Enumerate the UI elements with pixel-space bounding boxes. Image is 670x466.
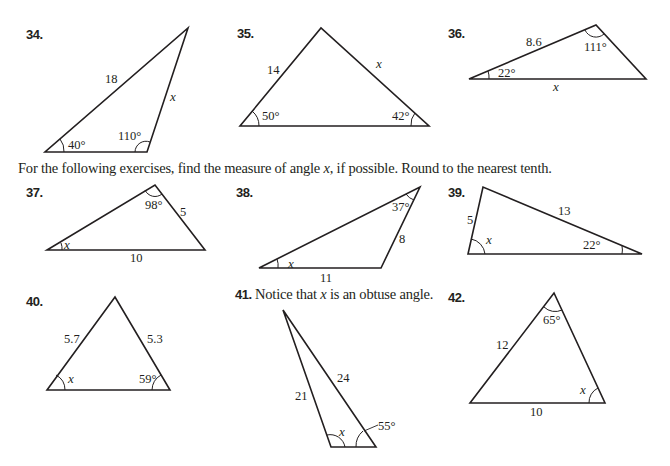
side-label: 10 [530,405,543,419]
angle-pointer [364,425,378,431]
triangle [45,28,188,152]
angle-arc [60,139,64,152]
side-label: 12 [496,338,509,352]
angle-label: 22° [498,66,516,80]
side-label: 5 [467,213,473,227]
angle-arc [356,431,363,447]
side-label: 5.3 [147,332,163,346]
side-label: 18 [105,72,118,86]
exercise-41: 21 24 x 55° [283,310,396,447]
angle-label: 55° [378,419,396,433]
side-label: 5.7 [64,332,80,346]
side-label-x: x [169,89,176,104]
exercise-number: 37. [26,185,43,200]
triangle [469,25,646,79]
exercise-number: 38. [236,185,253,200]
angle-arc [252,111,259,126]
angle-arc [471,239,485,254]
angle-label-x: x [287,256,294,271]
angle-arc [411,113,415,126]
side-label-x: x [552,79,559,94]
exercise-35: 35. 14 x 50° 42° [237,26,429,126]
angle-arc [589,388,598,403]
triangle [468,187,642,254]
exercise-41-note: 41. Notice that x is an obtuse angle. [235,286,433,303]
instruction-text: For the following exercises, find the me… [18,160,552,177]
exercise-38: 38. 37° 8 x 11 [236,185,420,285]
angle-arc [488,71,489,79]
angle-label: 59° [139,372,157,386]
angle-label-x: x [338,424,345,439]
triangle [283,310,376,447]
angle-label: 110° [118,129,141,143]
angle-arc [277,259,278,268]
angle-label: 98° [145,198,163,212]
angle-label-x: x [579,382,586,397]
side-label: 24 [337,371,350,385]
exercise-37: 37. x 98° 5 10 [26,185,205,265]
exercise-number: 39. [448,185,465,200]
angle-arc [61,243,62,250]
angle-label-x: x [63,237,70,252]
angle-label: 111° [584,40,607,54]
angle-arc [56,375,65,390]
side-label: 8.6 [526,35,542,49]
exercise-36: 36. 8.6 111° 22° x [448,25,646,94]
exercise-42: 42. 12 65° x 10 [448,290,605,419]
angle-label: 37° [392,200,410,214]
exercise-34: 34. 18 x 110° 40° [26,27,188,152]
side-label-x: x [375,56,382,71]
exercise-39: 39. 5 13 x 22° [448,185,642,254]
exercise-number: 40. [26,294,43,309]
angle-label: 65° [543,313,561,327]
side-label: 13 [558,204,571,218]
angle-label-x: x [67,371,74,386]
angle-arc [544,307,562,312]
angle-label-x: x [485,232,492,247]
exercise-figures: 34. 18 x 110° 40° 35. 14 x 50° 42° 36. 8… [0,0,670,466]
side-label: 8 [399,232,405,246]
side-label: 14 [267,63,280,77]
exercise-number: 36. [448,26,465,41]
side-label: 21 [295,389,308,403]
side-label: 10 [130,251,143,265]
exercise-40: 40. 5.7 5.3 x 59° [26,294,170,390]
exercise-number: 34. [26,27,43,42]
side-label: 11 [320,271,332,285]
angle-label: 22° [583,238,601,252]
exercise-number: 42. [448,290,465,305]
exercise-number: 35. [237,26,254,41]
angle-label: 50° [262,109,280,123]
exercise-number: 41. [235,287,252,302]
side-label: 5 [180,205,186,219]
angle-label: 42° [392,109,410,123]
angle-label: 40° [68,138,86,152]
